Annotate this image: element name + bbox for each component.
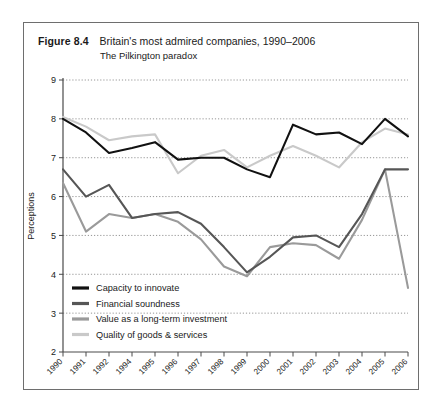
figure-number: Figure 8.4 <box>38 35 89 47</box>
figure-subtitle: The Pilkington paradox <box>100 50 408 61</box>
figure-caption: Figure 8.4 Britain's most admired compan… <box>38 35 408 61</box>
figure-frame: Figure 8.4 Britain's most admired compan… <box>23 22 419 390</box>
figure-title: Britain's most admired companies, 1990–2… <box>100 35 316 47</box>
